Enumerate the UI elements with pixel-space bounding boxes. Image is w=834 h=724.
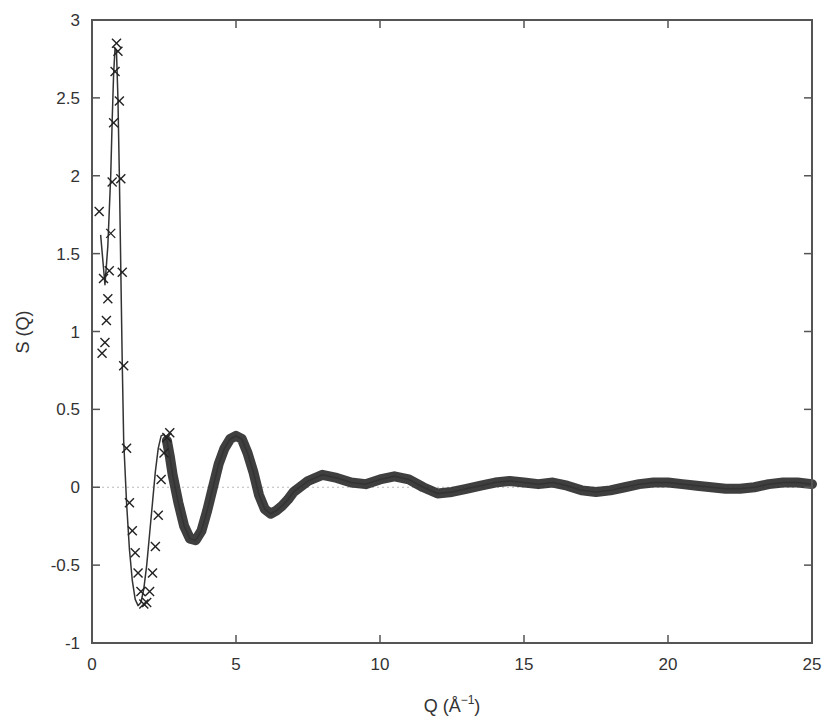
x-marker xyxy=(131,548,140,557)
x-marker xyxy=(139,600,148,609)
y-tick-label: -1 xyxy=(65,634,80,653)
x-marker xyxy=(102,316,111,325)
y-tick-label: 1.5 xyxy=(56,245,80,264)
x-marker xyxy=(108,177,117,186)
x-marker xyxy=(111,67,120,76)
y-axis-label: S (Q) xyxy=(13,311,33,354)
x-marker xyxy=(103,294,112,303)
x-marker xyxy=(118,268,127,277)
x-marker xyxy=(100,338,109,347)
y-tick-label: 1 xyxy=(71,323,80,342)
x-tick-label: 15 xyxy=(515,655,534,674)
x-marker xyxy=(165,428,174,437)
x-marker xyxy=(142,598,151,607)
y-tick-label: 0 xyxy=(71,478,80,497)
x-tick-label: 5 xyxy=(231,655,240,674)
y-tick-label: -0.5 xyxy=(51,556,80,575)
x-marker xyxy=(151,542,160,551)
y-axis-ticks: -1-0.500.511.522.53 xyxy=(51,11,812,653)
x-marker xyxy=(119,361,128,370)
y-tick-label: 2.5 xyxy=(56,89,80,108)
x-tick-label: 10 xyxy=(371,655,390,674)
x-marker xyxy=(95,207,104,216)
x-marker xyxy=(128,526,137,535)
x-marker xyxy=(116,174,125,183)
plot-frame xyxy=(92,20,812,643)
x-tick-label: 0 xyxy=(87,655,96,674)
y-tick-label: 2 xyxy=(71,167,80,186)
experimental-data-markers xyxy=(95,39,175,609)
x-tick-label: 25 xyxy=(803,655,822,674)
x-marker xyxy=(148,568,157,577)
x-marker xyxy=(145,587,154,596)
x-tick-label: 20 xyxy=(659,655,678,674)
x-marker xyxy=(154,511,163,520)
x-axis-label: Q (Å−1) xyxy=(424,693,481,716)
x-marker xyxy=(109,118,118,127)
x-marker xyxy=(106,229,115,238)
x-axis-ticks: 0510152025 xyxy=(87,20,821,674)
x-marker xyxy=(136,587,145,596)
model-curve xyxy=(101,48,812,606)
x-marker xyxy=(112,39,121,48)
x-marker xyxy=(115,96,124,105)
structure-factor-chart: 0510152025 -1-0.500.511.522.53 S (Q) Q (… xyxy=(0,0,834,724)
y-tick-label: 3 xyxy=(71,11,80,30)
x-marker xyxy=(134,568,143,577)
x-marker xyxy=(98,349,107,358)
x-marker xyxy=(157,475,166,484)
y-tick-label: 0.5 xyxy=(56,400,80,419)
